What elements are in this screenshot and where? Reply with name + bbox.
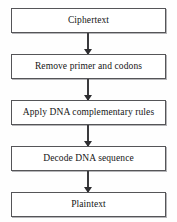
node-label: Remove primer and codons xyxy=(35,62,142,72)
flowchart-node-ciphertext: Ciphertext xyxy=(11,8,166,33)
flowchart-node-apply-dna-complementary-rules: Apply DNA complementary rules xyxy=(11,100,166,125)
flowchart-arrow-4 xyxy=(87,171,89,192)
flowchart-arrow-3 xyxy=(87,125,89,146)
node-label: Apply DNA complementary rules xyxy=(23,108,154,118)
flowchart-node-decode-dna-sequence: Decode DNA sequence xyxy=(11,146,166,171)
node-label: Decode DNA sequence xyxy=(43,154,134,164)
flowchart-arrow-2 xyxy=(87,79,89,100)
node-label: Plaintext xyxy=(71,200,106,210)
node-label: Ciphertext xyxy=(68,16,109,26)
flowchart-arrow-1 xyxy=(87,33,89,54)
flowchart-node-remove-primer-and-codons: Remove primer and codons xyxy=(11,54,166,79)
flowchart-node-plaintext: Plaintext xyxy=(11,192,166,217)
flowchart-canvas: Ciphertext Remove primer and codons Appl… xyxy=(0,0,177,222)
